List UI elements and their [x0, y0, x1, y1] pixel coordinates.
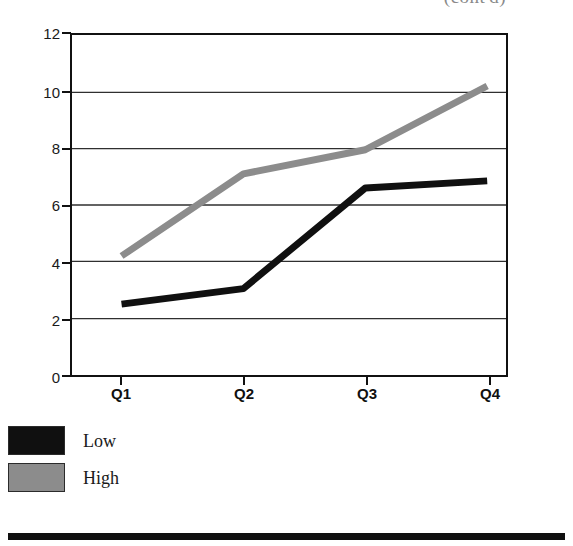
plot-area — [70, 33, 508, 377]
legend-label-high: High — [83, 468, 119, 490]
x-tick-label-q3: Q3 — [332, 386, 402, 401]
x-tick-mark-q2 — [243, 377, 245, 385]
y-tick-label-0: 0 — [20, 370, 60, 385]
x-tick-label-q1: Q1 — [86, 386, 156, 401]
series-line-low — [122, 181, 488, 304]
line-chart-figure: (cont'd) 12 10 8 6 4 2 0 — [0, 0, 573, 546]
x-tick-mark-q3 — [366, 377, 368, 385]
legend-item-high: High — [8, 461, 208, 498]
bottom-horizontal-rule — [8, 533, 565, 540]
y-tick-label-2: 2 — [20, 313, 60, 328]
y-tick-label-8: 8 — [20, 141, 60, 156]
legend-label-low: Low — [83, 431, 116, 453]
x-tick-label-q2: Q2 — [209, 386, 279, 401]
x-tick-mark-q1 — [120, 377, 122, 385]
y-tick-label-6: 6 — [20, 198, 60, 213]
x-tick-mark-q4 — [489, 377, 491, 385]
plot-canvas — [72, 35, 506, 375]
series-line-high — [122, 86, 488, 256]
clipped-header-caption: (cont'd) — [380, 0, 570, 8]
chart-legend: Low High — [8, 424, 208, 498]
y-tick-label-4: 4 — [20, 256, 60, 271]
y-tick-label-10: 10 — [20, 85, 60, 100]
legend-item-low: Low — [8, 424, 208, 461]
legend-swatch-low — [8, 426, 65, 455]
gridlines — [72, 92, 506, 318]
y-tick-label-12: 12 — [20, 26, 60, 41]
x-tick-label-q4: Q4 — [455, 386, 525, 401]
legend-swatch-high — [8, 463, 65, 492]
